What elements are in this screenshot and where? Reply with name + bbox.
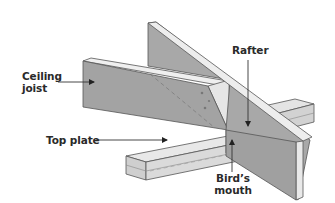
birds-mouth-label: Bird’s mouth xyxy=(213,172,253,196)
birds-mouth-label-line1: Bird’s xyxy=(213,172,253,184)
top-plate-label: Top plate xyxy=(46,134,100,146)
ceiling-joist-label-line2: joist xyxy=(22,82,62,94)
framing-diagram: Ceiling joist Rafter Top plate Bird’s mo… xyxy=(0,0,335,203)
ceiling-joist-label: Ceiling joist xyxy=(22,70,62,94)
rafter-label: Rafter xyxy=(232,44,268,56)
framing-illustration xyxy=(0,0,335,203)
birds-mouth-label-line2: mouth xyxy=(213,184,253,196)
ceiling-joist-label-line1: Ceiling xyxy=(22,70,62,82)
